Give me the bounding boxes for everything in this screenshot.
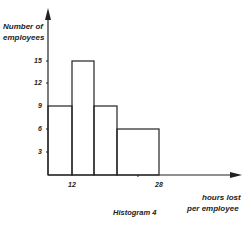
y-tick-label-9: 9	[38, 102, 42, 109]
bar-20-28	[117, 129, 159, 175]
bar-12-16	[72, 61, 94, 175]
y-tick-label-6: 6	[38, 125, 42, 132]
y-axis-arrow-icon	[45, 8, 51, 20]
y-tick-label-3: 3	[38, 148, 42, 155]
y-tick-label-15: 15	[34, 57, 42, 64]
bar-16-20	[94, 106, 117, 175]
x-axis-label-line1: hours lost	[202, 193, 241, 203]
y-axis-label-line1: Number of	[3, 22, 43, 32]
y-axis-label-line2: employees	[3, 33, 44, 43]
y-tick-label-12: 12	[34, 79, 42, 86]
x-axis-arrow-icon	[230, 172, 242, 178]
x-tick-label-12: 12	[68, 181, 76, 188]
bar-8-12	[48, 106, 72, 175]
x-axis-label-line2: per employee	[187, 204, 239, 214]
x-tick-label-28: 28	[155, 181, 163, 188]
chart-caption: Histogram 4	[113, 208, 156, 217]
